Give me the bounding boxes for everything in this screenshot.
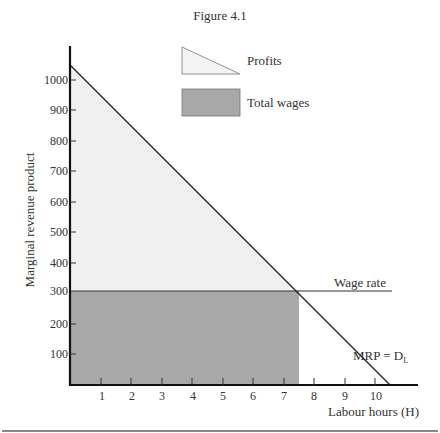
legend-profits-label: Profits xyxy=(247,53,282,68)
legend-wages-swatch xyxy=(182,89,240,116)
total-wages-area xyxy=(70,291,299,385)
svg-text:200: 200 xyxy=(50,317,68,331)
y-axis-label: Marginal revenue product xyxy=(22,152,37,287)
svg-text:1000: 1000 xyxy=(44,73,68,87)
svg-text:4: 4 xyxy=(190,389,196,403)
svg-text:2: 2 xyxy=(129,389,135,403)
wage-rate-label: Wage rate xyxy=(334,275,386,290)
svg-text:9: 9 xyxy=(342,389,348,403)
svg-text:600: 600 xyxy=(50,195,68,209)
svg-text:3: 3 xyxy=(159,389,165,403)
legend-wages-label: Total wages xyxy=(247,95,309,110)
svg-text:700: 700 xyxy=(50,164,68,178)
x-tick-labels: 1 2 3 4 5 6 7 8 9 10 xyxy=(99,389,382,403)
mrp-label-main: MRP = D xyxy=(353,348,403,363)
svg-text:1: 1 xyxy=(99,389,105,403)
svg-text:100: 100 xyxy=(50,347,68,361)
svg-text:500: 500 xyxy=(50,225,68,239)
svg-text:800: 800 xyxy=(50,134,68,148)
y-tick-labels: 1000 900 800 700 600 500 400 300 200 100 xyxy=(44,73,68,361)
mrp-label-subscript: L xyxy=(403,356,408,365)
svg-text:5: 5 xyxy=(220,389,226,403)
svg-text:900: 900 xyxy=(50,103,68,117)
svg-text:7: 7 xyxy=(281,389,287,403)
legend: Profits Total wages xyxy=(182,47,309,116)
svg-text:6: 6 xyxy=(250,389,256,403)
svg-text:10: 10 xyxy=(370,389,382,403)
svg-text:8: 8 xyxy=(311,389,317,403)
chart: 1000 900 800 700 600 500 400 300 200 100… xyxy=(0,0,440,433)
svg-text:300: 300 xyxy=(50,284,68,298)
svg-text:400: 400 xyxy=(50,256,68,270)
x-axis-label: Labour hours (H) xyxy=(328,404,419,419)
mrp-label: MRP = DL xyxy=(353,348,408,365)
legend-profits-swatch xyxy=(182,47,240,74)
